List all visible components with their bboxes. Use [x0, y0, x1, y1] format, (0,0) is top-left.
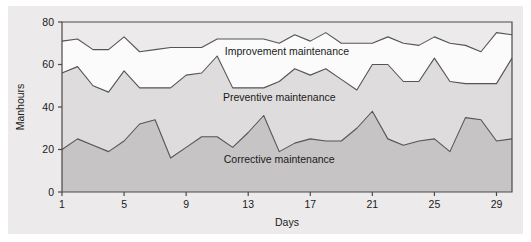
x-axis-tick-label: 5 [121, 198, 127, 210]
x-axis-tick-label: 21 [367, 198, 379, 210]
x-axis-title: Days [275, 216, 299, 228]
x-axis-tick-label: 1 [59, 198, 65, 210]
y-axis-title: Manhours [14, 84, 26, 131]
series-annotation-label: Preventive maintenance [223, 91, 336, 103]
stacked-area-chart: 020406080 1591317212529 Manhours Days Im… [8, 6, 523, 234]
y-axis-tick-label: 0 [48, 186, 54, 198]
y-axis-tick-label: 60 [42, 58, 54, 70]
chart-figure: 020406080 1591317212529 Manhours Days Im… [0, 0, 531, 242]
y-axis-ticks: 020406080 [42, 16, 62, 198]
x-axis-tick-label: 13 [242, 198, 254, 210]
y-axis-tick-label: 20 [42, 143, 54, 155]
y-axis-tick-label: 80 [42, 16, 54, 28]
series-annotation-label: Corrective maintenance [224, 153, 335, 165]
series-annotation-label: Improvement maintenance [225, 45, 349, 57]
chart-panel: 020406080 1591317212529 Manhours Days Im… [8, 6, 523, 234]
x-axis-tick-label: 9 [183, 198, 189, 210]
x-axis-ticks: 1591317212529 [59, 192, 502, 210]
x-axis-tick-label: 17 [304, 198, 316, 210]
x-axis-tick-label: 29 [491, 198, 503, 210]
x-axis-tick-label: 25 [429, 198, 441, 210]
y-axis-tick-label: 40 [42, 101, 54, 113]
